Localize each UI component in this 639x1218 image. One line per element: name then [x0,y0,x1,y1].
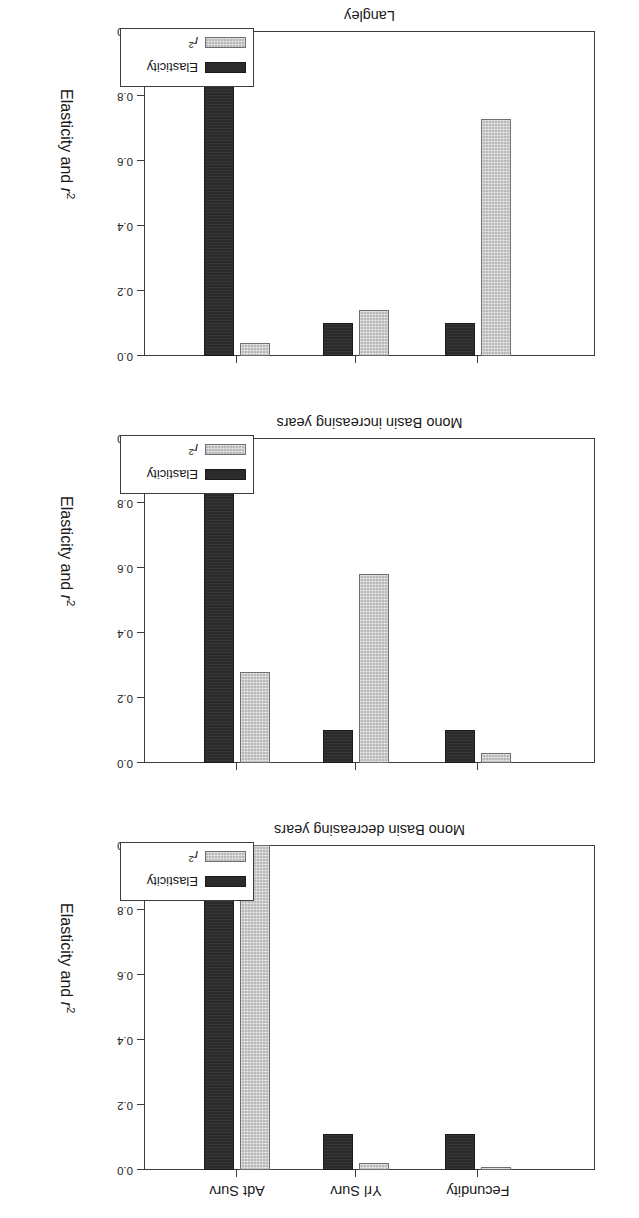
x-axis-tick [236,1170,237,1177]
x-axis-tick [477,356,478,363]
legend-item: r2 [188,35,246,51]
y-axis-tick-label: 0.2 [117,693,133,705]
y-axis-title: Elasticity and r2 [58,497,79,607]
x-axis-tick [236,356,237,363]
legend-swatch-elasticity [205,469,246,480]
y-axis-tick [137,502,144,503]
y-axis-tick-label: 0.0 [117,758,133,770]
y-axis-tick [137,697,144,698]
legend: Elasticityr2 [120,28,254,87]
y-axis-tick [137,1039,144,1040]
y-axis-title: Elasticity and r2 [58,904,79,1014]
y-axis-tick-label: 0.4 [117,628,133,640]
y-axis-tick-label: 0.8 [117,905,133,917]
y-axis-tick [137,1104,144,1105]
y-axis-tick-label: 0.4 [117,221,133,233]
y-axis-tick-label: 0.6 [117,563,133,575]
x-axis-category-label: Yrl Surv [330,1183,382,1198]
y-axis-tick-label: 0.2 [117,1100,133,1112]
y-axis-tick [137,160,144,161]
x-axis-tick [477,1170,478,1177]
legend-item: Elasticity [147,61,246,74]
legend-label: r2 [188,35,198,51]
y-axis-tick [137,290,144,291]
legend: Elasticityr2 [120,842,254,901]
legend-label: Elasticity [147,875,198,888]
panel-caption: Mono Basin increasing years [144,415,595,431]
y-axis-title: Elasticity and r2 [58,90,79,200]
y-axis-tick-label: 0.0 [117,351,133,363]
legend: Elasticityr2 [120,435,254,494]
y-axis-tick [137,225,144,226]
y-axis-tick [137,632,144,633]
y-axis-tick [137,95,144,96]
legend-item: r2 [188,849,246,865]
legend-item: Elasticity [147,875,246,888]
legend-label: r2 [188,442,198,458]
legend-swatch-r2 [205,444,246,455]
legend-label: Elasticity [147,468,198,481]
legend-swatch-elasticity [205,876,246,887]
x-axis-tick [355,763,356,770]
legend-swatch-r2 [205,37,246,48]
y-axis-tick [137,1169,144,1170]
y-axis-tick [137,355,144,356]
y-axis-tick [137,909,144,910]
y-axis-tick [137,974,144,975]
y-axis-tick-label: 0.4 [117,1035,133,1047]
y-axis-tick [137,567,144,568]
panel-caption: Mono Basin decreasing years [144,822,595,838]
legend-label: r2 [188,849,198,865]
y-axis-tick-label: 0.0 [117,1165,133,1177]
legend-item: Elasticity [147,468,246,481]
panel-caption: Langley [144,8,595,24]
x-axis-tick [236,763,237,770]
x-axis-tick [355,356,356,363]
figure-root: FecundityYrl SurvAdt Surv0.00.20.40.60.8… [0,0,639,1218]
legend-item: r2 [188,442,246,458]
legend-swatch-elasticity [205,62,246,73]
x-axis-category-label: Fecundity [447,1183,510,1198]
x-axis-category-label: Adt Surv [209,1183,265,1198]
y-axis-tick [137,762,144,763]
y-axis-tick-label: 0.6 [117,970,133,982]
x-axis-tick [355,1170,356,1177]
y-axis-tick-label: 0.8 [117,498,133,510]
legend-label: Elasticity [147,61,198,74]
y-axis-tick-label: 0.2 [117,286,133,298]
x-axis-tick [477,763,478,770]
legend-swatch-r2 [205,851,246,862]
y-axis-tick-label: 0.6 [117,156,133,168]
y-axis-tick-label: 0.8 [117,91,133,103]
